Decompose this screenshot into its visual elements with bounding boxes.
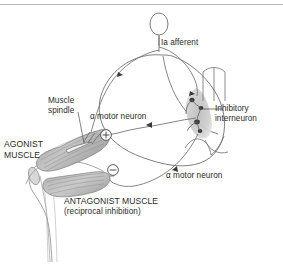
label-alpha-motor-neuron-upper: α motor neuron: [90, 112, 146, 122]
label-inhibitory-interneuron-line2: interneuron: [215, 114, 257, 124]
inhibitory-synapse-symbol: [108, 165, 119, 176]
label-antagonist-muscle: ANTAGONIST MUSCLE: [64, 196, 158, 206]
label-ia-afferent: Ia afferent: [161, 38, 198, 48]
label-muscle-spindle-line2: spindle: [48, 106, 74, 116]
label-agonist-muscle-line2: MUSCLE: [4, 150, 40, 160]
dorsal-root-ganglion-cell-body: [150, 13, 168, 35]
label-reciprocal-inhibition: (reciprocal inhibition): [64, 207, 141, 217]
dorsal-root-bracket: [203, 68, 225, 102]
figure-root: Ia afferent Muscle spindle α motor neuro…: [0, 0, 283, 264]
label-inhibitory-interneuron-line1: Inhibitory: [215, 104, 249, 114]
antagonist-muscle: [43, 172, 110, 197]
label-agonist-muscle-line1: AGONIST: [4, 139, 43, 149]
anatomy-diagram: [0, 0, 283, 264]
label-alpha-motor-neuron-lower: α motor neuron: [166, 171, 222, 181]
label-muscle-spindle-line1: Muscle: [48, 96, 74, 106]
excitatory-synapse-symbol: [101, 130, 112, 141]
